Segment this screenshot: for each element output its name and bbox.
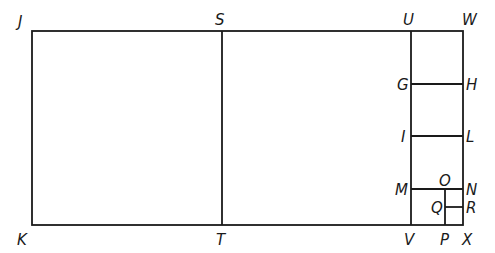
label-h: H xyxy=(466,76,477,94)
label-i: I xyxy=(401,128,406,146)
label-w: W xyxy=(462,11,478,29)
label-k: K xyxy=(17,231,28,249)
label-t: T xyxy=(216,231,227,249)
label-p: P xyxy=(440,231,450,249)
diagram-svg: J S U W K T V X G H I L M N O Q R P xyxy=(0,0,495,253)
geometry-diagram: J S U W K T V X G H I L M N O Q R P xyxy=(0,0,495,253)
point-labels: J S U W K T V X G H I L M N O Q R P xyxy=(15,11,478,249)
label-o: O xyxy=(439,172,451,190)
label-v: V xyxy=(404,231,416,249)
label-r: R xyxy=(466,199,476,217)
label-q: Q xyxy=(431,199,443,217)
label-x: X xyxy=(461,231,473,249)
label-s: S xyxy=(215,11,225,29)
label-l: L xyxy=(466,128,474,146)
label-g: G xyxy=(397,76,409,94)
label-j: J xyxy=(15,13,22,31)
label-u: U xyxy=(403,11,414,29)
label-m: M xyxy=(395,181,408,199)
label-n: N xyxy=(466,181,477,199)
